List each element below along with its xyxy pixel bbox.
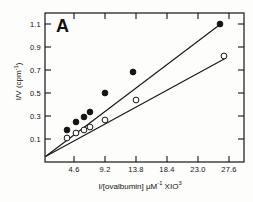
x-axis-title: I/[ovalbumin] μM-1 XIO3 — [45, 180, 235, 191]
x-tick-label-1: 9.2 — [90, 165, 120, 174]
x-tick-label-5: 27.6 — [214, 165, 244, 174]
series-markers-open — [64, 53, 227, 141]
x-axis-title-main: I/[ovalbumin] — [98, 182, 146, 191]
y-axis-title-close: ) — [14, 63, 23, 66]
x-tick-label-3: 18.4 — [152, 165, 182, 174]
panel-letter: A — [56, 16, 69, 37]
figure-panel: A 0.1 0.3 0.5 0.7 0.9 1.1 4.6 9.2 13.8 1… — [0, 0, 253, 202]
x-axis-title-unit: μM — [146, 182, 157, 191]
x-axis-title-exponent-2: 3 — [178, 180, 181, 186]
series-line-filled — [46, 25, 221, 157]
y-tick-label-0: 0.1 — [8, 135, 41, 144]
x-axis-ticks-top — [74, 13, 229, 19]
x-tick-label-0: 4.6 — [59, 165, 89, 174]
x-axis-title-scale: XIO — [162, 182, 178, 191]
y-axis-ticks — [45, 24, 51, 139]
y-axis-title: I/V (cpm-1) — [13, 38, 24, 124]
y-axis-title-exponent: -1 — [13, 65, 19, 70]
series-markers-filled — [64, 21, 223, 133]
x-tick-label-4: 23.0 — [183, 165, 213, 174]
y-tick-label-5: 1.1 — [8, 20, 41, 29]
plot-frame — [45, 13, 244, 162]
y-axis-ticks-right — [238, 24, 244, 139]
x-tick-label-2: 13.8 — [121, 165, 151, 174]
y-axis-title-main: I/V (cpm — [14, 70, 23, 100]
x-axis-ticks — [74, 156, 229, 162]
